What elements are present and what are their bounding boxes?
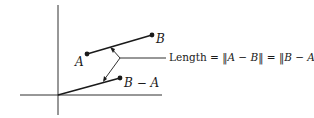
- norm-b-minus-a: ‖B − A‖: [279, 51, 314, 63]
- norm-a-minus-b: ‖A − B‖: [222, 51, 263, 63]
- equals-sign: =: [263, 51, 278, 63]
- callout-bracket: [104, 49, 120, 80]
- label-b: B: [156, 33, 165, 45]
- segment-a-to-b: [87, 35, 152, 54]
- length-prefix: Length =: [169, 51, 222, 63]
- diagram-canvas: A B B − A Length = ‖A − B‖ = ‖B − A‖: [0, 0, 314, 118]
- point-a-dot: [85, 52, 90, 57]
- point-b-dot: [150, 33, 155, 38]
- vector-b-minus-a: [58, 78, 120, 95]
- length-equation: Length = ‖A − B‖ = ‖B − A‖: [169, 52, 314, 63]
- point-b-minus-a-dot: [118, 76, 123, 81]
- label-a: A: [75, 56, 84, 68]
- label-b-minus-a: B − A: [124, 77, 159, 89]
